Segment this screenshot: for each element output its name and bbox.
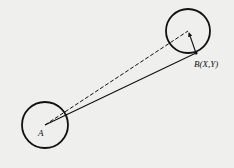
label-a: A (37, 128, 44, 138)
label-b: B(X,Y) (194, 59, 218, 69)
diagram-canvas: A B(X,Y) (0, 0, 234, 168)
dashed-line-a-to-center (45, 31, 188, 125)
solid-line-a-to-b (45, 53, 196, 125)
radius-arrow-to-b (189, 33, 196, 53)
point-b-dot (194, 51, 197, 54)
